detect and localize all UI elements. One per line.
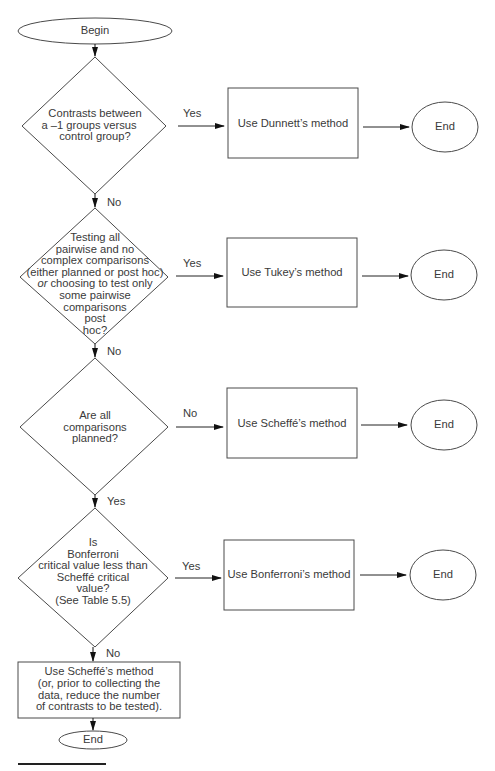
action-2-label: Use Tukey’s method xyxy=(227,267,357,279)
footnote-rule xyxy=(18,763,106,765)
decision-1-yes-label: Yes xyxy=(183,107,201,119)
decision-2-line: post xyxy=(15,313,175,325)
decision-3-line: Are all xyxy=(30,410,160,422)
final-action-text: Use Scheffé’s method (or, prior to colle… xyxy=(18,666,180,713)
end-1-label: End xyxy=(412,121,478,133)
decision-2-line: Testing all xyxy=(15,232,175,244)
decision-2-line: some pairwise xyxy=(15,290,175,302)
end-2-label: End xyxy=(411,269,477,281)
final-action-line: (or, prior to collecting the xyxy=(18,678,180,690)
action-4-label: Use Bonferroni’s method xyxy=(224,569,354,581)
end-4-label: End xyxy=(410,569,476,581)
or-emphasis: or xyxy=(37,277,47,289)
decision-2-yes-label: Yes xyxy=(183,257,201,269)
decision-3-line: planned? xyxy=(30,433,160,445)
final-end-label: End xyxy=(60,734,126,746)
decision-2-no-label: No xyxy=(107,345,121,357)
decision-4-line: Is xyxy=(18,537,168,549)
decision-4-line: (See Table 5.5) xyxy=(18,595,168,607)
decision-4-text: Is Bonferroni critical value less than S… xyxy=(18,537,168,607)
decision-1-no-label: No xyxy=(107,196,121,208)
begin-label: Begin xyxy=(55,25,135,37)
action-3-label: Use Scheffé’s method xyxy=(227,418,357,430)
decision-1-line: Contrasts between xyxy=(30,108,160,120)
decision-3-yes-label: Yes xyxy=(107,495,125,507)
final-action-line: of contrasts to be tested). xyxy=(18,701,180,713)
decision-4-yes-label: Yes xyxy=(182,560,200,572)
decision-1-text: Contrasts between a –1 groups versus con… xyxy=(30,108,160,143)
decision-1-line: control group? xyxy=(30,131,160,143)
decision-3-text: Are all comparisons planned? xyxy=(30,410,160,445)
decision-3-no-label: No xyxy=(183,407,197,419)
decision-4-no-label: No xyxy=(106,647,120,659)
decision-2-text: Testing all pairwise and no complex comp… xyxy=(15,232,175,336)
end-3-label: End xyxy=(411,419,477,431)
action-1-label: Use Dunnett’s method xyxy=(228,118,358,130)
decision-2-line-rest: choosing to test only xyxy=(47,277,152,289)
decision-2-line: hoc? xyxy=(15,325,175,337)
